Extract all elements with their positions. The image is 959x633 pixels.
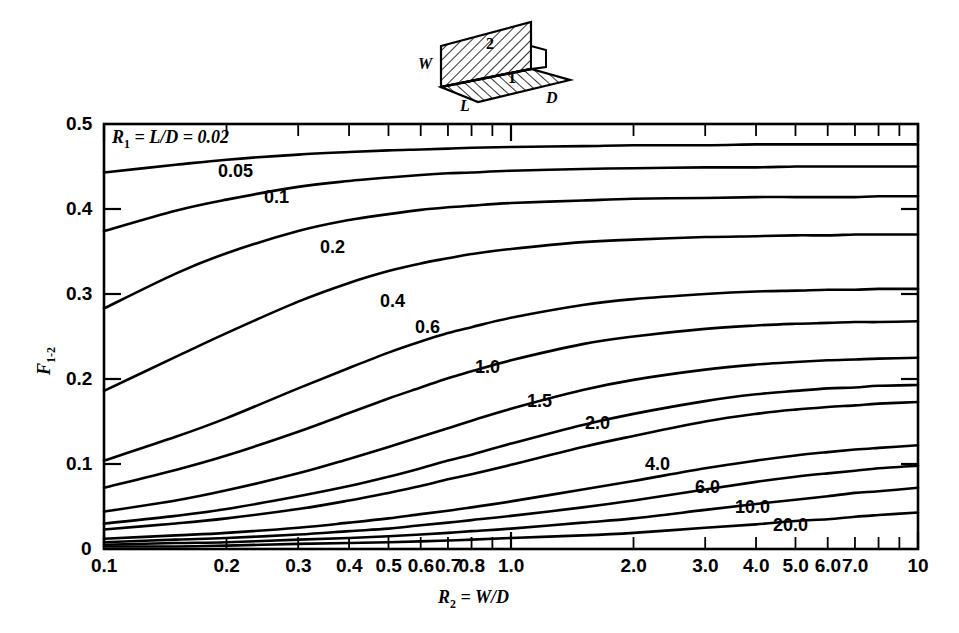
x-tick-label: 1.0 [498,556,524,575]
curve-0p6 [104,321,918,488]
curve-label-0p6: 0.6 [415,318,440,336]
curve-label-20p0: 20.0 [773,516,808,534]
curve-label-0p4: 0.4 [380,292,405,310]
curve-label-4p0: 4.0 [645,455,670,473]
curve-label-1p0: 1.0 [475,358,500,376]
figure-root: 2 1 W L D F1-2 R2 = W/D R1 = L/D = 0.02 … [0,0,959,633]
curve-label-0p05: 0.05 [218,162,253,180]
curve-label-10p0: 10.0 [735,498,770,516]
curve-label-6p0: 6.0 [695,478,720,496]
x-tick-label: 10 [908,556,929,575]
y-tick-label: 0.1 [66,454,92,473]
curve-label-0p1: 0.1 [264,188,289,206]
y-tick-label: 0 [81,539,92,558]
curve-1p0 [104,358,918,512]
x-tick-label: 6.0 [815,556,841,575]
x-tick-label: 0.2 [214,556,240,575]
curve-0p4 [104,289,918,461]
y-axis-title: F1-2 [34,347,59,375]
x-tick-label: 0.3 [285,556,311,575]
chart-plot [0,0,959,633]
x-tick-label: 0.5 [375,556,401,575]
curve-label-2p0: 2.0 [585,414,610,432]
x-tick-label: 0.4 [336,556,362,575]
x-tick-label: 0.7 [435,556,461,575]
x-tick-label: 0.6 [408,556,434,575]
x-tick-label: 5.0 [782,556,808,575]
y-tick-label: 0.5 [66,114,92,133]
x-axis-title: R2 = W/D [438,588,509,610]
x-tick-label: 0.1 [91,556,117,575]
curve-label-1p5: 1.5 [527,392,552,410]
curve-0p2 [104,234,918,390]
x-tick-label: 0.8 [459,556,485,575]
plot-frame [104,124,918,549]
x-tick-label: 2.0 [621,556,647,575]
y-axis-title-text: F1-2 [34,347,54,375]
x-tick-label: 4.0 [743,556,769,575]
y-tick-label: 0.4 [66,199,92,218]
x-tick-label: 3.0 [692,556,718,575]
y-tick-label: 0.2 [66,369,92,388]
y-tick-label: 0.3 [66,284,92,303]
x-tick-label: 7.0 [842,556,868,575]
curve-label-0p2: 0.2 [320,238,345,256]
family-note: R1 = L/D = 0.02 [112,128,229,150]
